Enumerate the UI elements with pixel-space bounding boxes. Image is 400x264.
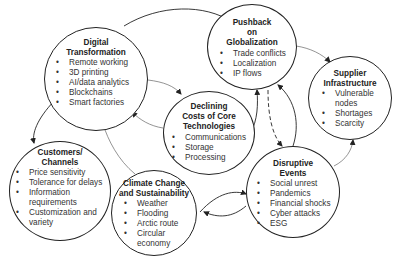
node-declining-costs: Declining Costs of Core Technologies Com… <box>163 91 255 175</box>
list-item: Smart factories <box>56 98 129 108</box>
node-title-line: Customers/ <box>10 148 110 158</box>
node-title-line: Technologies <box>164 122 254 132</box>
node-title-line: Disruptive <box>247 159 339 169</box>
node-title-line: Digital <box>45 38 147 48</box>
arrow-climate-to-disruptive <box>200 192 246 212</box>
node-climate-change: Climate Change and Sustainability Weathe… <box>111 170 197 256</box>
list-item-continuation: economy <box>124 239 178 249</box>
list-item-continuation: requirements <box>16 198 102 208</box>
list-item: Scarcity <box>322 119 374 129</box>
node-title-line: on <box>208 28 296 38</box>
list-item: Localization <box>220 59 286 69</box>
list-item: Arctic route <box>124 219 178 229</box>
node-digital-transformation: Digital Transformation Remote working 3D… <box>44 27 148 131</box>
list-item: AI/data analytics <box>56 78 129 88</box>
list-item: Remote working <box>56 58 129 68</box>
list-item: Blockchains <box>56 88 129 98</box>
list-item: Storage <box>172 143 246 153</box>
list-item: Social unrest <box>257 179 331 189</box>
node-title-line: Transformation <box>45 48 147 58</box>
arrow-digital-to-declining <box>148 80 181 94</box>
list-item: Communications <box>172 133 246 143</box>
node-pushback-on-globalization: Pushback on Globalization Trade conflict… <box>207 4 297 90</box>
list-item-continuation: nodes <box>322 99 374 109</box>
arrow-disruptive-to-climate <box>204 206 246 216</box>
node-title-line: Declining <box>164 102 254 112</box>
node-title-line: Channels <box>10 158 110 168</box>
list-item: Vulnerable <box>322 89 374 99</box>
node-title-line: Climate Change <box>112 179 196 189</box>
list-item: Cyber attacks <box>257 209 331 219</box>
node-title-line: Costs of Core <box>164 112 254 122</box>
arrow-declining-to-digital <box>132 112 163 128</box>
list-item: Processing <box>172 153 246 163</box>
node-title-line: and Sustainability <box>112 189 196 199</box>
node-customers-channels: Customers/ Channels Price sensitivity To… <box>9 141 111 241</box>
node-supplier-infrastructure: Supplier Infrastructure Vulnerable nodes… <box>308 56 392 140</box>
node-title-line: Events <box>247 169 339 179</box>
node-title-line: Supplier <box>309 69 391 79</box>
node-title-line: Globalization <box>208 38 296 48</box>
list-item: Financial shocks <box>257 199 331 209</box>
list-item: Information <box>16 188 102 198</box>
list-item: Tolerance for delays <box>16 178 102 188</box>
arrow-pushback-to-disruptive <box>268 90 282 146</box>
list-item: ESG <box>257 219 331 229</box>
list-item: IP flows <box>220 69 286 79</box>
arrow-pushback-to-supplier <box>296 46 330 62</box>
node-title-line: Pushback <box>208 18 296 28</box>
node-disruptive-events: Disruptive Events Social unrest Pandemic… <box>246 146 340 238</box>
list-item-continuation: variety <box>16 218 102 228</box>
arrow-disruptive-to-pushback <box>278 85 296 146</box>
list-item: Flooding <box>124 209 178 219</box>
list-item: Shortages <box>322 109 374 119</box>
list-item: Trade conflicts <box>220 49 286 59</box>
list-item: Weather <box>124 199 178 209</box>
list-item: Customization and <box>16 208 102 218</box>
list-item: Pandemics <box>257 189 331 199</box>
list-item: Price sensitivity <box>16 168 102 178</box>
list-item: 3D printing <box>56 68 129 78</box>
list-item: Circular <box>124 229 178 239</box>
node-title-line: Infrastructure <box>309 79 391 89</box>
